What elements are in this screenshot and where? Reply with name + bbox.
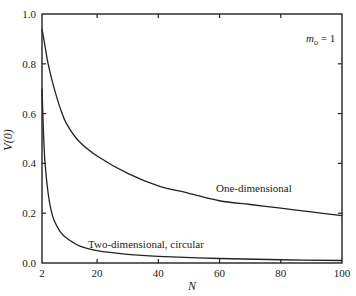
x-axis-label: N: [187, 279, 197, 293]
series-line-one-dimensional: [42, 29, 342, 216]
annotation-two-dimensional: Two-dimensional, circular: [88, 238, 204, 250]
annotation-m0-main: m: [306, 32, 314, 44]
x-tick-label: 60: [214, 267, 226, 279]
ticks: [42, 14, 342, 263]
series-line-two-dimensional: [42, 89, 342, 261]
y-tick-label: 1.0: [22, 8, 36, 20]
y-tick-label: 0.4: [22, 157, 36, 169]
annotation-m0: mo = 1: [306, 32, 335, 47]
x-tick-label: 80: [275, 267, 287, 279]
x-tick-label: 2: [39, 267, 45, 279]
annotation-one-dimensional: One-dimensional: [216, 182, 292, 194]
x-tick-label: 100: [334, 267, 351, 279]
x-tick-label: 20: [92, 267, 104, 279]
y-tick-label: 0.0: [22, 257, 36, 269]
y-axis-label: V(0): [1, 129, 15, 150]
x-tick-label: 40: [153, 267, 165, 279]
y-tick-label: 0.8: [22, 58, 36, 70]
plot-frame: [42, 14, 342, 263]
annotation-m0-rest: = 1: [318, 32, 335, 44]
y-tick-label: 0.2: [22, 207, 36, 219]
series-group: [42, 29, 342, 261]
y-tick-label: 0.6: [22, 108, 36, 120]
chart: 2204060801000.00.20.40.60.81.0 N V(0) On…: [0, 0, 356, 296]
